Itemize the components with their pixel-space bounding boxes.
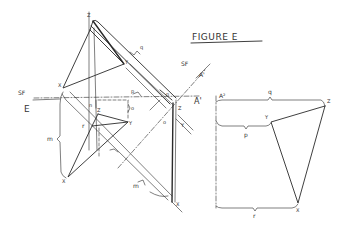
label-x-lower: X [62, 178, 66, 184]
bracket-q-right [216, 97, 325, 106]
label-m-band: m [133, 182, 139, 189]
label-z-lower: Z [97, 107, 101, 113]
band-foot-curve [150, 192, 168, 197]
band-line-4 [130, 64, 172, 104]
label-z-upper: Z [87, 12, 91, 18]
band-line-1 [93, 20, 176, 98]
label-a2: A² [219, 92, 226, 99]
label-sf-diag: SF [181, 60, 189, 67]
figure-title-text: FIGURE E [192, 32, 238, 42]
fold-line-a1: SF A' [118, 60, 210, 168]
projector-z2 [94, 28, 97, 150]
label-y-lower: Y [128, 120, 133, 126]
label-o: o [131, 105, 134, 111]
label-q-left: q [140, 44, 143, 51]
label-a1: A' [194, 97, 202, 106]
label-m-left: m [47, 135, 53, 142]
label-q-right: q [268, 88, 272, 96]
label-z-band: Z [178, 105, 182, 111]
edge-z-top [90, 21, 93, 30]
bracket-m-band [138, 180, 145, 185]
bracket-p-left [133, 92, 141, 96]
label-n: n [89, 102, 92, 108]
lower-band-2 [70, 92, 172, 196]
lower-triangle-body [68, 122, 128, 177]
lower-view: n o Z r Y X m m [47, 92, 172, 200]
right-view: A' A² q p r Z Y X [194, 88, 331, 219]
label-sf-left: SF [18, 89, 26, 96]
label-p-right: p [244, 131, 248, 139]
label-x-upper: X [58, 82, 62, 88]
sf-tick [33, 99, 60, 100]
label-z-right: Z [327, 98, 331, 104]
label-o-band: o [163, 119, 166, 125]
upper-triangle-xyz: Z X Y [58, 12, 129, 150]
label-e: E [24, 104, 30, 114]
label-r-right: r [253, 212, 256, 219]
lower-band-1 [62, 94, 168, 200]
label-n-band: n [166, 91, 169, 97]
band-joint-2 [150, 100, 160, 110]
slanted-band: q p [91, 20, 176, 108]
label-a1-top: A' [199, 71, 205, 78]
label-x-right: X [296, 207, 300, 213]
bracket-m-left [57, 92, 66, 178]
figure-e-drawing: FIGURE E Z X Y q p SF E SF [0, 0, 346, 230]
right-triangle [271, 106, 325, 203]
label-p-left: p [131, 88, 134, 95]
dim-box [98, 100, 128, 120]
vertical-thin [175, 100, 176, 202]
fold-line-diagonal [118, 70, 205, 168]
label-r-lower: r [82, 122, 85, 129]
bracket-r-right [216, 204, 298, 211]
vertical-heavy [172, 103, 173, 202]
bracket-p-right [216, 121, 271, 129]
label-x-band: X [176, 201, 180, 207]
label-y-right: Y [264, 114, 269, 120]
vertical-band: n Z o Y X [150, 90, 193, 212]
figure-title: FIGURE E [191, 32, 262, 43]
